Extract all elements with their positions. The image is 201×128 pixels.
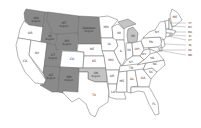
svg-text:Region: Region — [49, 57, 58, 60]
label-KY: KY — [129, 60, 133, 64]
label-MA: MA — [188, 31, 192, 34]
label-VT: VT — [188, 22, 192, 25]
label-NY: NY — [155, 30, 159, 34]
label-MN: MN — [103, 25, 109, 29]
label-WV: WV — [142, 53, 147, 56]
state-VT[interactable] — [165, 20, 169, 29]
label-AR: AR — [110, 74, 115, 78]
svg-text:Region: Region — [47, 77, 56, 80]
label-AL: AL — [130, 77, 134, 81]
label-NC: NC — [153, 62, 158, 66]
label-CT: CT — [188, 39, 192, 42]
label-WI: WI — [117, 31, 121, 35]
label-GA: GA — [141, 76, 146, 80]
svg-text:Region: Region — [46, 38, 55, 41]
us-map: WA Region OR CA ID Region NV MT Region W… — [0, 0, 201, 128]
label-MO: MO — [108, 58, 114, 62]
svg-text:Region: Region — [65, 79, 74, 82]
label-TX: TX — [91, 93, 97, 97]
svg-text:Region: Region — [63, 43, 72, 46]
state-NJ[interactable] — [161, 39, 165, 48]
label-ME: ME — [173, 15, 178, 19]
label-NE: NE — [90, 47, 94, 51]
label-OR: OR — [28, 31, 34, 35]
label-FL: FL — [152, 102, 156, 106]
label-MI: MI — [131, 34, 135, 38]
label-MS: MS — [120, 79, 125, 83]
label-MD: MD — [188, 54, 192, 57]
label-KS: KS — [92, 59, 96, 63]
svg-text:Region: Region — [92, 75, 101, 78]
label-RI: RI — [189, 35, 192, 38]
label-OH: OH — [135, 47, 141, 51]
label-IL: IL — [120, 49, 123, 53]
label-NH: NH — [188, 26, 192, 29]
svg-text:Region: Region — [60, 25, 69, 28]
label-CO: CO — [70, 57, 75, 61]
state-RI[interactable] — [170, 33, 172, 36]
svg-text:Region: Region — [85, 30, 94, 33]
state-FL[interactable] — [131, 87, 159, 115]
label-DE: DE — [188, 49, 192, 52]
label-TN: TN — [128, 66, 134, 70]
label-NV: NV — [35, 51, 40, 55]
svg-text:Region: Region — [32, 20, 41, 23]
label-NJ: NJ — [189, 44, 192, 47]
